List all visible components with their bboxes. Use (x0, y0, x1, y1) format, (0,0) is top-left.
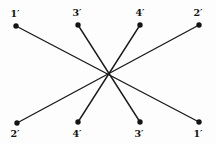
diagram-stage: 1′3′4′2′2′4′3′1′ (0, 0, 216, 144)
vertex-dot-b1 (196, 119, 201, 124)
crossing-lines-diagram: 1′3′4′2′2′4′3′1′ (0, 0, 216, 144)
vertex-label-t3: 3′ (72, 7, 82, 18)
vertex-dot-t4 (137, 22, 142, 27)
vertex-dot-b4 (75, 119, 80, 124)
vertex-label-t2: 2′ (193, 7, 203, 18)
vertex-label-b4: 4′ (72, 128, 82, 139)
vertex-label-t4: 4′ (135, 7, 145, 18)
vertex-label-b3: 3′ (134, 128, 144, 139)
vertex-dot-b3 (137, 119, 142, 124)
vertex-dot-b2 (14, 120, 19, 125)
vertex-dot-t2 (196, 22, 201, 27)
vertex-label-t1: 1′ (10, 8, 20, 19)
vertex-label-b2: 2′ (10, 128, 20, 139)
vertex-dot-t3 (75, 22, 80, 27)
vertex-dot-t1 (13, 23, 18, 28)
vertex-label-b1: 1′ (193, 128, 203, 139)
